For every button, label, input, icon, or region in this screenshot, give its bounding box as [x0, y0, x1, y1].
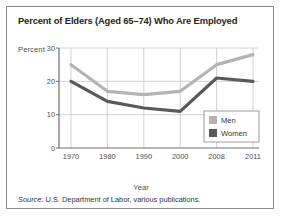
legend-swatch-women: [209, 129, 217, 137]
x-tick-label: 1980: [99, 152, 115, 161]
source-text: U.S. Department of Labor, various public…: [43, 195, 200, 204]
chart-card: Percent of Elders (Aged 65–74) Who Are E…: [6, 6, 274, 209]
source-prefix: Source:: [18, 195, 43, 204]
source-note: Source: U.S. Department of Labor, variou…: [18, 195, 268, 204]
legend-swatch-men: [209, 116, 217, 124]
x-tick-label: 1990: [136, 152, 152, 161]
legend-label-women: Women: [221, 129, 247, 138]
chart-title: Percent of Elders (Aged 65–74) Who Are E…: [18, 15, 266, 26]
y-tick-label: 20: [47, 77, 55, 86]
y-tick-label: 30: [47, 44, 55, 53]
y-tick-label: 10: [47, 110, 55, 119]
chart-plot-area: 0102030 197019801990200020082011 Men Wom…: [7, 31, 275, 179]
y-tick-label: 0: [51, 144, 55, 153]
x-tick-label: 1970: [63, 152, 79, 161]
line-chart-svg: 0102030 197019801990200020082011 Men Wom…: [7, 31, 275, 179]
x-tick-label: 2011: [245, 152, 261, 161]
x-axis-label: Year: [7, 183, 275, 192]
legend-label-men: Men: [221, 116, 236, 125]
chart-legend: Men Women: [204, 111, 259, 142]
x-tick-label: 2008: [208, 152, 224, 161]
series-lines-group: [71, 55, 253, 112]
y-tick-labels-group: 0102030: [47, 44, 59, 153]
x-tick-label: 2000: [172, 152, 188, 161]
series-line-men: [71, 55, 253, 95]
x-tick-labels-group: 197019801990200020082011: [63, 152, 261, 161]
